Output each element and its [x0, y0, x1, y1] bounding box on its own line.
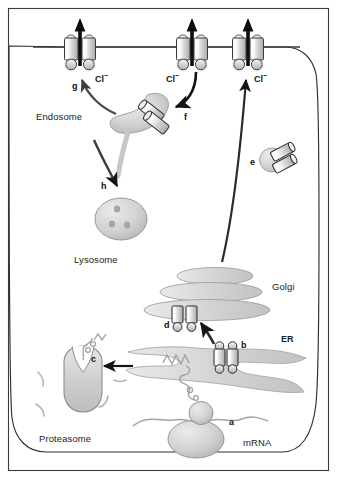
membrane-channel-right — [233, 18, 264, 70]
arrow-g-recycling — [82, 80, 116, 114]
label-step-h: h — [101, 182, 107, 191]
figure-root: Endosome Lysosome Golgi ER Proteasome mR… — [0, 0, 337, 479]
label-step-d: d — [164, 321, 170, 330]
label-er: ER — [281, 335, 294, 344]
arrow-er-to-golgi — [201, 323, 214, 344]
chloride-text: Cl — [95, 74, 104, 84]
chloride-charge: − — [263, 72, 267, 79]
chloride-charge: − — [104, 72, 108, 79]
chloride-text: Cl — [254, 74, 263, 84]
label-endosome: Endosome — [36, 112, 82, 122]
arrow-exocytic-to-membrane — [222, 80, 246, 262]
label-chloride-right: Cl− — [254, 72, 267, 84]
label-mrna: mRNA — [243, 438, 271, 448]
label-step-g: g — [72, 82, 78, 91]
chloride-charge: − — [175, 72, 179, 79]
ribosome — [168, 402, 224, 459]
label-chloride-middle: Cl− — [166, 72, 179, 84]
membrane-channel-left — [65, 18, 96, 70]
label-step-e: e — [250, 158, 255, 167]
label-step-f: f — [184, 113, 187, 122]
label-step-a: a — [229, 418, 234, 427]
endosome-tail — [118, 132, 128, 176]
label-golgi: Golgi — [272, 282, 295, 292]
label-chloride-left: Cl− — [95, 72, 108, 84]
arrow-h-to-lysosome — [94, 140, 117, 186]
membrane-channel-middle — [177, 18, 208, 70]
vesicle-e — [260, 141, 299, 173]
label-proteasome: Proteasome — [39, 434, 91, 444]
label-step-b: b — [241, 341, 247, 350]
golgi-stack — [144, 268, 270, 321]
label-lysosome: Lysosome — [74, 255, 118, 265]
lysosome — [95, 198, 147, 240]
label-step-c: c — [91, 355, 96, 364]
chloride-text: Cl — [166, 74, 175, 84]
